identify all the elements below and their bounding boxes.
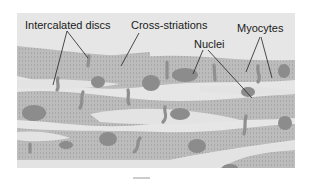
label-myocytes: Myocytes: [237, 22, 284, 34]
label-nuclei: Nuclei: [194, 38, 225, 50]
label-cross-striations: Cross-striations: [131, 19, 208, 31]
label-intercalated-discs: Intercalated discs: [25, 19, 111, 31]
cardiac-muscle-diagram: Intercalated discs Cross-striations Nucl…: [0, 0, 309, 185]
